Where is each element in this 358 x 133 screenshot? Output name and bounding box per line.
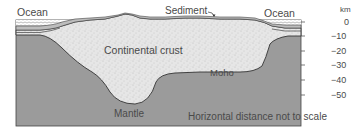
tick-minus-40: −40: [331, 76, 346, 85]
label-mantle: Mantle: [114, 109, 144, 119]
label-ocean-left: Ocean: [17, 7, 48, 18]
tick-minus-30: −30: [331, 61, 346, 70]
tick-minus-10: −10: [331, 32, 346, 41]
label-scale-note: Horizontal distance not to scale: [188, 112, 327, 122]
label-sediment: Sediment: [165, 6, 207, 16]
axis-unit-km: km: [340, 6, 351, 14]
label-moho: Moho: [210, 68, 234, 78]
label-ocean-right: Ocean: [264, 8, 295, 19]
tick-0: 0: [344, 18, 349, 27]
tick-minus-20: −20: [331, 47, 346, 56]
tick-minus-50: −50: [331, 91, 346, 100]
label-continental-crust: Continental crust: [104, 45, 183, 56]
depth-axis: [301, 22, 305, 95]
